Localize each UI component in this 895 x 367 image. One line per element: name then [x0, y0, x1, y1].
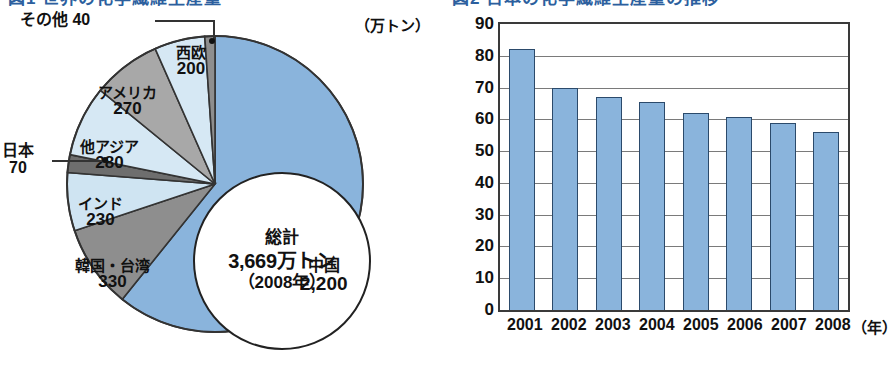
slice-value: 270 — [98, 100, 157, 117]
y-tick-60: 60 — [475, 109, 494, 129]
pie-chart-panel: 総計 3,669万トン （2008年） 中国 2,200 韓国・台湾 330 イ… — [0, 0, 440, 367]
bar-chart-panel: （万トン） 0102030405060708090 20012002200320… — [440, 0, 895, 367]
x-tick-2004: 2004 — [639, 316, 665, 334]
slice-label-america: アメリカ 270 — [98, 85, 157, 118]
bar-2008 — [813, 132, 839, 310]
x-tick-2006: 2006 — [727, 316, 753, 334]
y-axis-unit-label: （万トン） — [355, 14, 430, 35]
figure-page: 図1 世界の化学繊維生産量 図2 日本の化学繊維生産量の推移 総計 3,669万… — [0, 0, 895, 367]
bar-2006 — [726, 117, 752, 310]
x-axis-unit-label: （年） — [852, 316, 895, 337]
x-tick-2001: 2001 — [507, 316, 533, 334]
bar-2004 — [639, 102, 665, 310]
slice-callout-other: その他 40 — [20, 6, 90, 30]
slice-name: 中国 — [300, 258, 348, 274]
slice-name: 日本 — [2, 142, 34, 159]
y-tick-20: 20 — [475, 236, 494, 256]
y-tick-90: 90 — [475, 14, 494, 34]
leader-line-japan — [52, 160, 105, 162]
slice-label-india: インド 230 — [78, 196, 123, 229]
bar-2001 — [509, 49, 535, 310]
slice-value: 330 — [75, 273, 150, 290]
slice-label-other-asia: 他アジア 280 — [80, 139, 139, 172]
slice-value: 230 — [78, 211, 123, 228]
y-tick-50: 50 — [475, 141, 494, 161]
slice-value: 280 — [80, 154, 139, 171]
x-tick-2003: 2003 — [595, 316, 621, 334]
slice-label-western-europe: 西欧 200 — [176, 45, 206, 78]
slice-label-korea-taiwan: 韓国・台湾 330 — [75, 258, 150, 291]
slice-name: 西欧 — [176, 45, 206, 60]
bar-2005 — [683, 113, 709, 310]
slice-value: 200 — [176, 60, 206, 77]
y-tick-80: 80 — [475, 46, 494, 66]
bar-2002 — [552, 88, 578, 310]
leader-dot-other — [209, 38, 215, 44]
x-tick-2005: 2005 — [683, 316, 709, 334]
leader-line-other-horizontal — [155, 20, 214, 22]
bar-2003 — [596, 97, 622, 310]
y-tick-40: 40 — [475, 173, 494, 193]
bar-2007 — [770, 123, 796, 310]
bar-series — [500, 24, 848, 310]
slice-name: アメリカ — [98, 85, 157, 100]
slice-callout-japan: 日本 70 — [2, 143, 34, 177]
slice-value: 2,200 — [300, 274, 348, 293]
x-tick-2007: 2007 — [771, 316, 797, 334]
slice-name: 韓国・台湾 — [75, 258, 150, 273]
y-tick-70: 70 — [475, 78, 494, 98]
leader-dot-japan — [102, 157, 108, 163]
total-label: 総計 — [265, 228, 299, 249]
slice-name: 他アジア — [80, 139, 139, 154]
x-axis-ticks: 20012002200320042005200620072008 — [498, 316, 850, 334]
y-tick-30: 30 — [475, 205, 494, 225]
x-tick-2008: 2008 — [815, 316, 841, 334]
x-tick-2002: 2002 — [551, 316, 577, 334]
y-tick-10: 10 — [475, 268, 494, 288]
slice-name: インド — [78, 196, 123, 211]
slice-label-china: 中国 2,200 — [300, 258, 348, 294]
y-tick-0: 0 — [485, 300, 494, 320]
bar-plot-area: 0102030405060708090 — [498, 22, 850, 312]
slice-value: 70 — [2, 160, 34, 177]
